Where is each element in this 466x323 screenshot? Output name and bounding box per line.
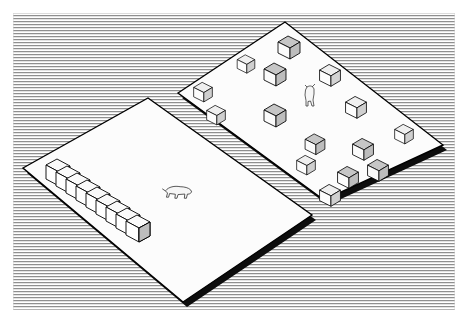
isometric-scene (0, 0, 466, 323)
illustration-canvas (0, 0, 466, 323)
